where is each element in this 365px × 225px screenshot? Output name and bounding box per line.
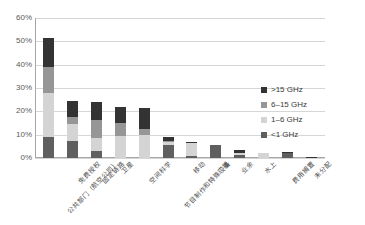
y-axis-tick-label: 50% [4, 37, 32, 45]
bar-segment[interactable] [234, 155, 245, 159]
bar-stack[interactable] [234, 150, 245, 158]
x-axis-label-slot: 节目制作和特殊设备 [156, 159, 180, 223]
x-axis-label-slot: 免费授权 [61, 159, 85, 223]
legend-label: >15 GHz [271, 86, 303, 94]
legend-item[interactable]: <1 GHz [261, 131, 307, 139]
x-axis-label-slot: 水上 [251, 159, 275, 223]
x-axis-labels: 公共部门（航空公司）免费授权固定链路卫星空间科学节目制作和特殊设备移动广播业余水… [35, 159, 325, 223]
x-axis-label-slot: 未分配 [299, 159, 323, 223]
bar-segment[interactable] [210, 145, 221, 158]
bar-segment[interactable] [67, 124, 78, 140]
bar-segment[interactable] [163, 145, 174, 158]
bar-stack[interactable] [139, 108, 150, 158]
legend-item[interactable]: 6–15 GHz [261, 101, 307, 109]
bar-stack[interactable] [210, 145, 221, 158]
x-axis-label-slot: 空间科学 [132, 159, 156, 223]
legend-label: <1 GHz [271, 131, 298, 139]
bar-segment[interactable] [139, 135, 150, 158]
bar-stack[interactable] [186, 142, 197, 158]
bar-stack[interactable] [258, 153, 269, 158]
bar-segment[interactable] [91, 138, 102, 151]
bar-column[interactable] [132, 18, 156, 158]
bar-segment[interactable] [91, 120, 102, 139]
bar-column[interactable] [85, 18, 109, 158]
bar-segment[interactable] [139, 108, 150, 129]
bar-segment[interactable] [43, 137, 54, 158]
bar-segment[interactable] [67, 101, 78, 117]
bar-column[interactable] [204, 18, 228, 158]
bar-column[interactable] [180, 18, 204, 158]
legend-item[interactable]: >15 GHz [261, 86, 307, 94]
bar-stack[interactable] [91, 102, 102, 158]
bar-segment[interactable] [186, 156, 197, 158]
bar-segment[interactable] [115, 136, 126, 158]
stacked-bar-chart: 0%10%20%30%40%50%60% 公共部门（航空公司）免费授权固定链路卫… [0, 0, 365, 225]
legend-swatch-icon [261, 117, 267, 123]
bar-stack[interactable] [282, 152, 293, 158]
bar-stack[interactable] [43, 38, 54, 158]
x-axis-label-slot: 卫星 [108, 159, 132, 223]
bar-column[interactable] [156, 18, 180, 158]
x-axis-label-slot: 业余 [228, 159, 252, 223]
bar-segment[interactable] [67, 141, 78, 159]
legend-swatch-icon [261, 87, 267, 93]
bar-stack[interactable] [306, 157, 317, 158]
legend-item[interactable]: 1–6 GHz [261, 116, 307, 124]
bar-stack[interactable] [115, 107, 126, 158]
legend-swatch-icon [261, 102, 267, 108]
bar-segment[interactable] [43, 38, 54, 67]
x-axis-label-slot: 费用搁置 [275, 159, 299, 223]
x-axis-label-slot: 公共部门（航空公司） [37, 159, 61, 223]
bar-column[interactable] [61, 18, 85, 158]
bar-segment[interactable] [43, 67, 54, 93]
legend-swatch-icon [261, 132, 267, 138]
y-axis-tick-label: 0% [4, 154, 32, 162]
x-axis-label-slot: 固定链路 [85, 159, 109, 223]
bar-stack[interactable] [163, 137, 174, 158]
bar-segment[interactable] [282, 153, 293, 158]
chart-legend: >15 GHz6–15 GHz1–6 GHz<1 GHz [261, 86, 307, 139]
bar-segment[interactable] [115, 107, 126, 123]
bar-segment[interactable] [186, 143, 197, 156]
x-axis-label-slot: 广播 [204, 159, 228, 223]
bar-segment[interactable] [67, 117, 78, 124]
y-axis-tick-label: 60% [4, 14, 32, 22]
bar-segment[interactable] [43, 93, 54, 137]
x-axis-label-slot: 移动 [180, 159, 204, 223]
y-axis-tick-label: 40% [4, 61, 32, 69]
y-axis-tick-label: 10% [4, 131, 32, 139]
x-axis-tick-label: 未分配 [313, 160, 333, 180]
bar-segment[interactable] [258, 153, 269, 158]
bar-segment[interactable] [91, 102, 102, 120]
bar-segment[interactable] [115, 123, 126, 136]
legend-label: 1–6 GHz [271, 116, 303, 124]
legend-label: 6–15 GHz [271, 101, 307, 109]
bar-stack[interactable] [67, 101, 78, 158]
bar-column[interactable] [37, 18, 61, 158]
bar-segment[interactable] [306, 157, 317, 158]
bar-column[interactable] [108, 18, 132, 158]
y-axis-tick-label: 20% [4, 107, 32, 115]
bar-segment[interactable] [91, 151, 102, 158]
bar-column[interactable] [228, 18, 252, 158]
y-axis-tick-label: 30% [4, 84, 32, 92]
